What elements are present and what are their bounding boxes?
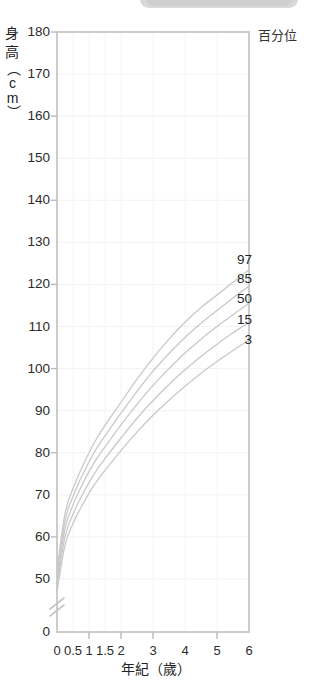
y-tick-label: 70 — [6, 488, 50, 501]
x-tick-label: 6 — [245, 643, 252, 658]
y-tick-label: 140 — [6, 193, 50, 206]
percentile-label-85: 85 — [226, 271, 252, 286]
x-tick-label: 2 — [117, 643, 124, 658]
x-tick-label: 4 — [181, 643, 188, 658]
growth-chart-plot — [0, 0, 314, 693]
y-tick-label: 160 — [6, 109, 50, 122]
y-tick-label: 60 — [6, 530, 50, 543]
y-tick-label: 170 — [6, 67, 50, 80]
y-tick-label: 100 — [6, 362, 50, 375]
y-tick-label: 50 — [6, 572, 50, 585]
y-tick-label: 120 — [6, 277, 50, 290]
x-tick-label: 3 — [149, 643, 156, 658]
x-tick-label: 1.5 — [96, 643, 114, 658]
x-tick-label: 0.5 — [64, 643, 82, 658]
y-tick-label: 90 — [6, 404, 50, 417]
growth-chart-screen: 身 高 （cm） 百分位 年紀（歲） 050607080901001101201… — [0, 0, 314, 693]
x-tick-label: 5 — [213, 643, 220, 658]
y-tick-label: 80 — [6, 446, 50, 459]
y-tick-label: 0 — [6, 625, 50, 638]
percentile-label-15: 15 — [226, 312, 252, 327]
percentile-label-50: 50 — [226, 291, 252, 306]
percentile-label-97: 97 — [226, 252, 252, 267]
x-tick-label: 0 — [53, 643, 60, 658]
percentile-label-3: 3 — [226, 332, 252, 347]
y-tick-label: 110 — [6, 320, 50, 333]
y-tick-label: 150 — [6, 151, 50, 164]
y-tick-label: 180 — [6, 25, 50, 38]
y-tick-label: 130 — [6, 235, 50, 248]
x-tick-label: 1 — [85, 643, 92, 658]
